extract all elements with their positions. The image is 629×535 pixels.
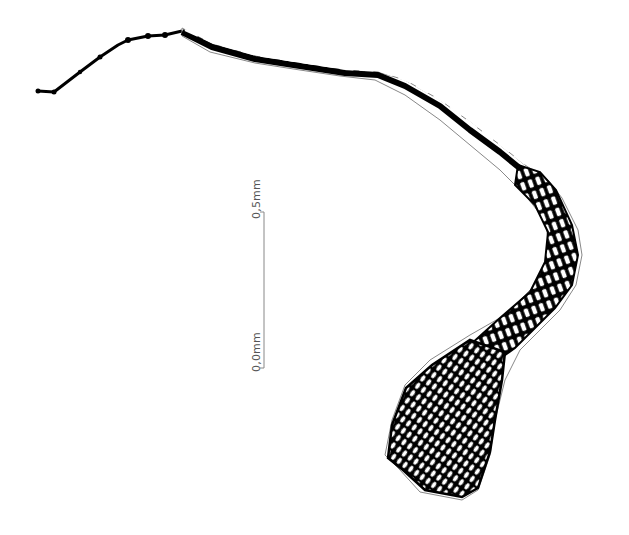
- lamina-base: [388, 340, 505, 497]
- scale-label-top: 0,5mm: [250, 179, 263, 219]
- lamina-upper: [470, 165, 578, 360]
- leaf-outline: [182, 28, 582, 500]
- subula: [182, 30, 525, 170]
- leaf-illustration: [0, 0, 629, 535]
- filament-tip: [36, 31, 183, 95]
- scale-label-bottom: 0,0mm: [250, 332, 263, 372]
